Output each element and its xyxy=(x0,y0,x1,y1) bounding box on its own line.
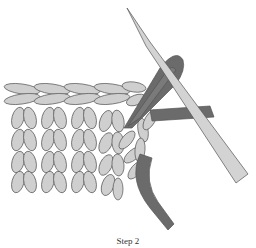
figure-caption: Step 2 xyxy=(0,236,256,246)
working-yarn-tail xyxy=(136,154,174,230)
chain-edge xyxy=(3,80,147,108)
